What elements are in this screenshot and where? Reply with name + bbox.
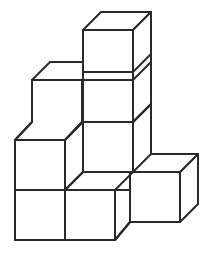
isometric-cube-figure [0, 0, 212, 253]
column-front-face-level2 [83, 122, 133, 172]
bottom-left-front-face [15, 190, 65, 240]
bottom-center-front-face [65, 190, 115, 240]
upper-left-front-face [15, 80, 82, 140]
middle-left-front-face [15, 140, 65, 190]
cube-figure-stage: Line drawing of seven identical cubes ar… [0, 0, 212, 253]
right-cube-front-face [130, 172, 180, 222]
